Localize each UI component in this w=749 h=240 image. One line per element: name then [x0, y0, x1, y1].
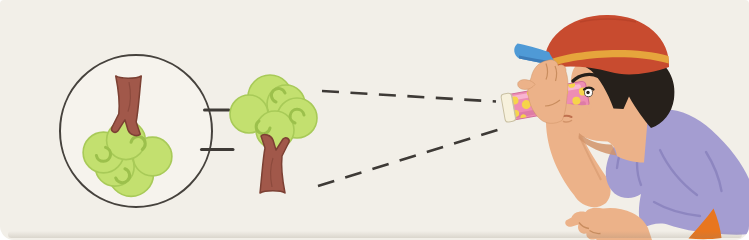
page-bottom-shadow	[8, 231, 742, 238]
magnified-inset	[60, 55, 212, 207]
telescope-diagram	[0, 0, 749, 240]
illustration-canvas	[0, 0, 749, 240]
eye-pupil	[586, 91, 589, 94]
